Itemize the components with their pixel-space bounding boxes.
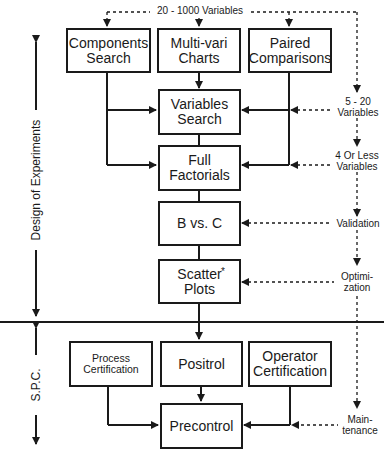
positrol-box: Positrol xyxy=(160,341,243,387)
top-variables-label: 20 - 1000 Variables xyxy=(150,5,250,16)
variables-search-label: Variables Search xyxy=(171,97,228,126)
b-vs-c-box: B vs. C xyxy=(158,201,241,246)
variables-search-box: Variables Search xyxy=(158,89,241,135)
paired-comparisons-label: Paired Comparisons xyxy=(249,36,331,65)
process-certification-box: Process Certification xyxy=(69,341,153,387)
components-search-label: Components Search xyxy=(69,36,148,65)
multi-vari-charts-box: Multi-vari Charts xyxy=(157,28,241,73)
operator-certification-box: Operator Certification xyxy=(248,341,332,387)
full-factorials-box: Full Factorials xyxy=(158,145,241,191)
operator-certification-label: Operator Certification xyxy=(253,349,327,378)
paired-comparisons-box: Paired Comparisons xyxy=(248,28,332,73)
positrol-label: Positrol xyxy=(178,357,225,372)
scatter-plots-box: Scatter Plots* xyxy=(158,259,241,304)
b-vs-c-label: B vs. C xyxy=(177,216,222,231)
spc-section-label: S.P.C. xyxy=(29,355,43,415)
precontrol-box: Precontrol xyxy=(160,403,243,449)
optimization-label: Optimi- zation xyxy=(334,271,380,293)
footnote-asterisk: * xyxy=(221,267,225,278)
validation-label: Validation xyxy=(332,218,384,229)
process-certification-label: Process Certification xyxy=(83,353,138,375)
doe-section-label: Design of Experiments xyxy=(29,110,43,250)
scatter-plots-label: Scatter Plots xyxy=(177,267,221,296)
four-or-less-variables-label: 4 Or Less Variables xyxy=(330,150,384,172)
maintenance-label: Main- tenance xyxy=(338,414,382,436)
full-factorials-label: Full Factorials xyxy=(169,153,230,182)
multi-vari-label: Multi-vari Charts xyxy=(171,36,228,65)
precontrol-label: Precontrol xyxy=(170,419,234,434)
five-twenty-variables-label: 5 - 20 Variables xyxy=(332,96,384,118)
components-search-box: Components Search xyxy=(66,28,151,73)
